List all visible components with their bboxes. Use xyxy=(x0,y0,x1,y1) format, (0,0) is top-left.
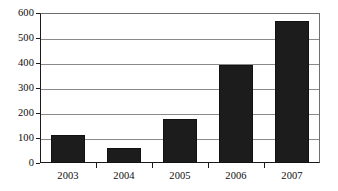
bar-2007 xyxy=(275,21,309,163)
y-axis-tick xyxy=(36,63,40,64)
y-axis-label-0: 0 xyxy=(29,158,34,169)
y-axis-label-200: 200 xyxy=(18,108,34,119)
y-axis-tick xyxy=(36,113,40,114)
x-axis-tick xyxy=(264,163,265,168)
x-axis-tick xyxy=(208,163,209,168)
y-axis-label-100: 100 xyxy=(18,133,34,144)
y-axis-tick xyxy=(36,13,40,14)
x-axis-label-2003: 2003 xyxy=(40,170,96,181)
y-axis-label-600: 600 xyxy=(18,8,34,19)
bar-chart: 600 500 400 300 200 100 0 2003 2004 2005… xyxy=(0,0,338,191)
x-axis-label-2006: 2006 xyxy=(208,170,264,181)
y-axis-tick xyxy=(36,38,40,39)
bar-2006 xyxy=(219,65,253,163)
x-axis-label-2007: 2007 xyxy=(264,170,320,181)
x-axis-label-2005: 2005 xyxy=(152,170,208,181)
bar-2004 xyxy=(107,148,141,163)
y-axis-label-500: 500 xyxy=(18,33,34,44)
x-axis-tick xyxy=(152,163,153,168)
y-axis-tick xyxy=(36,88,40,89)
y-axis-label-300: 300 xyxy=(18,83,34,94)
y-axis-label-400: 400 xyxy=(18,58,34,69)
x-axis-tick xyxy=(96,163,97,168)
y-axis-tick xyxy=(36,163,40,164)
bar-2005 xyxy=(163,119,197,163)
x-axis-label-2004: 2004 xyxy=(96,170,152,181)
y-axis-tick xyxy=(36,138,40,139)
bar-2003 xyxy=(51,135,85,163)
